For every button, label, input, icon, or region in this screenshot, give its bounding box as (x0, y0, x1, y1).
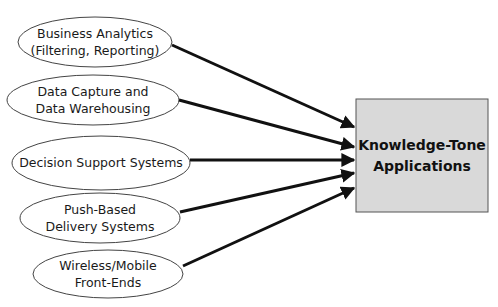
source-label-line2: (Filtering, Reporting) (31, 42, 160, 59)
source-label-line1: Decision Support Systems (19, 154, 183, 171)
arrow-push-based (180, 173, 354, 212)
arrow-wireless-mobile (183, 188, 354, 266)
source-label-line2: Delivery Systems (46, 218, 155, 235)
source-label-push-based: Push-Based Delivery Systems (22, 196, 178, 240)
arrow-data-capture (179, 100, 354, 147)
source-label-data-capture: Data Capture and Data Warehousing (10, 78, 176, 122)
target-label-line2: Applications (373, 156, 471, 177)
source-label-line2: Data Warehousing (36, 100, 151, 117)
target-label-line1: Knowledge-Tone (358, 135, 486, 156)
source-label-line1: Data Capture and (37, 83, 148, 100)
source-label-line1: Business Analytics (37, 25, 153, 42)
source-label-wireless-mobile: Wireless/Mobile Front-Ends (36, 252, 180, 296)
source-label-business-analytics: Business Analytics (Filtering, Reporting… (20, 20, 170, 64)
target-label: Knowledge-Tone Applications (356, 99, 488, 212)
arrow-business-analytics (172, 45, 354, 127)
source-label-line1: Push-Based (64, 201, 136, 218)
diagram-canvas: Business Analytics (Filtering, Reporting… (0, 0, 498, 307)
source-label-line1: Wireless/Mobile (59, 257, 157, 274)
source-label-decision-support: Decision Support Systems (14, 152, 188, 172)
source-label-line2: Front-Ends (75, 274, 141, 291)
